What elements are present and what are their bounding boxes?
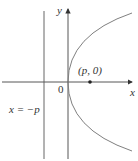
parabola-diagram: y x 0 (p, 0) x = −p xyxy=(0,0,138,161)
focus-label: (p, 0) xyxy=(78,64,102,77)
directrix-label: x = −p xyxy=(8,103,40,115)
x-axis-label: x xyxy=(129,86,135,98)
y-axis-label: y xyxy=(56,4,62,16)
origin-label: 0 xyxy=(58,83,64,95)
focus-point xyxy=(88,80,92,84)
